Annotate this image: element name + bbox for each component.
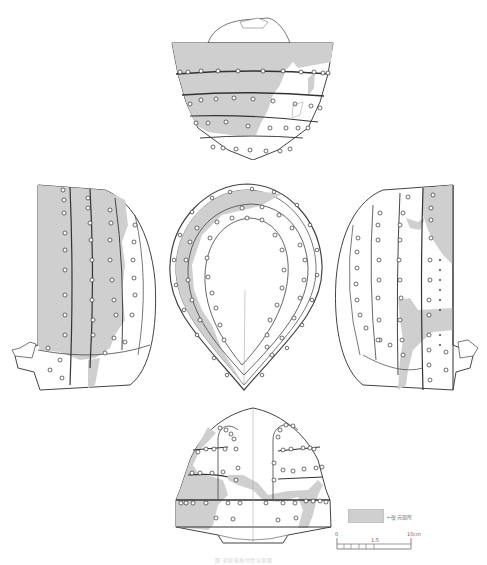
scale-bar: 0 1:5 10cm	[335, 531, 417, 551]
right-side-view-drawing	[328, 180, 483, 395]
scale-bar-graphic	[335, 531, 417, 551]
plan-view-drawing	[162, 180, 327, 400]
figure-caption: 図 鋲留衝角付冑実測図	[0, 556, 487, 563]
helmet-back-view-svg	[168, 405, 338, 545]
helmet-left-side-view-svg	[10, 180, 160, 395]
top-view-drawing	[168, 10, 338, 160]
legend: ←復元箇所	[348, 509, 412, 523]
left-side-view-drawing	[10, 180, 160, 395]
helmet-plan-view-svg	[162, 180, 327, 400]
restored-area-swatch	[348, 509, 384, 523]
helmet-right-side-view-svg	[328, 180, 483, 395]
legend-label: ←復元箇所	[387, 513, 412, 520]
helmet-top-view-svg	[168, 10, 338, 160]
back-view-drawing	[168, 405, 338, 545]
